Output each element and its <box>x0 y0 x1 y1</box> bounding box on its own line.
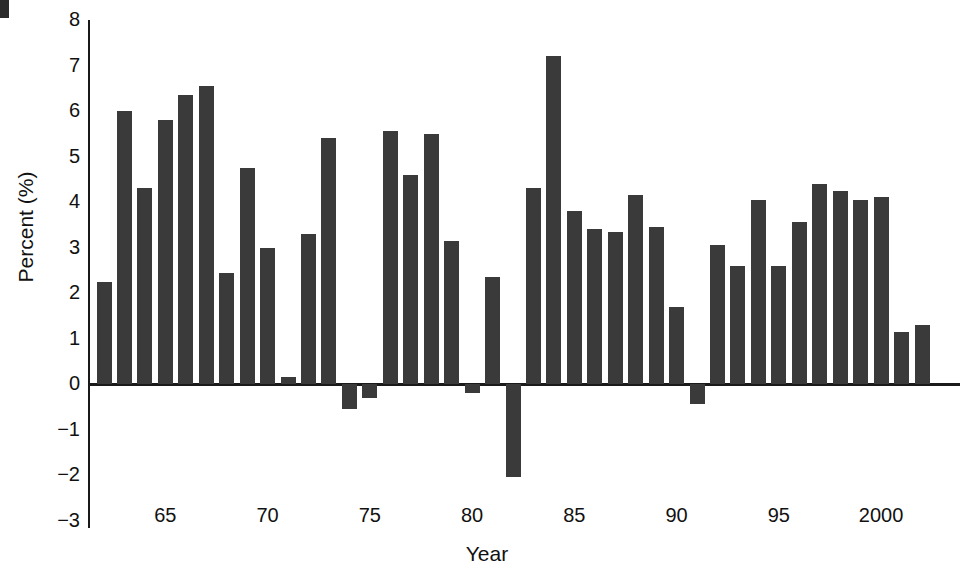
bar <box>894 332 909 384</box>
bar <box>485 277 500 384</box>
bar <box>792 222 807 384</box>
x-axis-title: Year <box>0 542 974 566</box>
bar-chart-figure: 876543210−1−2−3 657075808590952000 Perce… <box>0 0 974 581</box>
bar <box>874 197 889 384</box>
bar <box>117 111 132 384</box>
bar <box>403 175 418 384</box>
bar <box>97 282 112 384</box>
bar <box>260 248 275 385</box>
bar <box>526 188 541 384</box>
bar <box>321 138 336 384</box>
bar <box>649 227 664 384</box>
bar <box>240 168 255 384</box>
y-axis-title: Percent (%) <box>14 157 38 297</box>
bar <box>853 200 868 384</box>
bar <box>710 245 725 384</box>
bar <box>199 86 214 384</box>
bar <box>587 229 602 384</box>
bar <box>669 307 684 384</box>
bar-series <box>0 0 974 581</box>
bar <box>301 234 316 384</box>
bar <box>751 200 766 384</box>
bar <box>362 384 377 398</box>
bar <box>383 131 398 384</box>
bar <box>730 266 745 384</box>
bar <box>567 211 582 384</box>
bar <box>690 384 705 404</box>
bar <box>137 188 152 384</box>
bar <box>342 384 357 409</box>
bar <box>628 195 643 384</box>
bar <box>546 56 561 384</box>
bar <box>608 232 623 384</box>
bar <box>178 95 193 384</box>
bar <box>915 325 930 384</box>
bar <box>465 384 480 393</box>
bar <box>506 384 521 477</box>
bar <box>424 134 439 384</box>
bar <box>219 273 234 384</box>
bar <box>158 120 173 384</box>
bar <box>771 266 786 384</box>
bar <box>833 191 848 384</box>
bar <box>444 241 459 384</box>
bar <box>281 377 296 384</box>
bar <box>812 184 827 384</box>
